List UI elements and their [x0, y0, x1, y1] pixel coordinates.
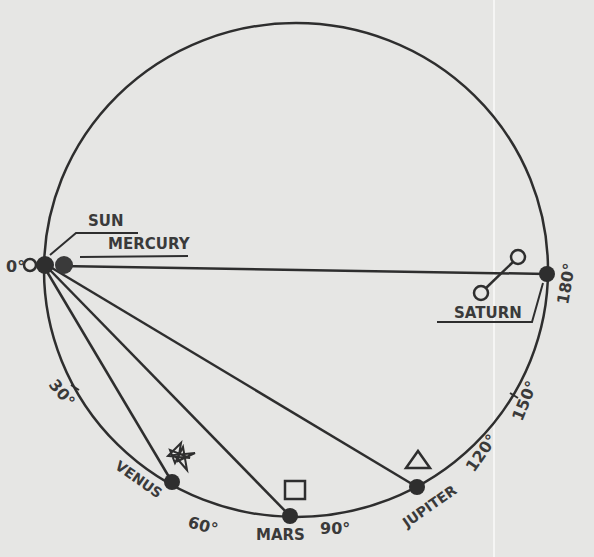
square-icon	[285, 481, 305, 499]
degree-180-label: 180°	[553, 262, 579, 306]
sun-dot-icon	[36, 256, 54, 274]
mercury-label: MERCURY	[108, 235, 191, 253]
degree-90-label: 90°	[320, 519, 350, 538]
jupiter-dot-icon	[409, 479, 425, 495]
mercury-dot-icon	[55, 256, 73, 274]
jupiter-group	[406, 451, 430, 495]
saturn-label: SATURN	[454, 304, 522, 322]
degree-60-label: 60°	[186, 513, 220, 539]
jupiter-label: JUPITER	[399, 482, 460, 531]
triangle-icon	[406, 451, 430, 468]
venus-dot-icon	[164, 474, 180, 490]
mercury-leader-line	[80, 256, 188, 257]
opposition-symbol-top-icon	[511, 250, 525, 264]
line-to-saturn	[60, 266, 547, 274]
venus-group	[164, 443, 195, 490]
zero-degree-marker-icon	[24, 259, 36, 271]
saturn-dot-icon	[539, 266, 555, 282]
line-to-jupiter	[52, 268, 417, 487]
degree-150-label: 150°	[508, 378, 541, 424]
mars-label: MARS	[256, 526, 305, 544]
degree-30-label: 30°	[45, 375, 79, 410]
mars-dot-icon	[282, 508, 298, 524]
degree-120-label: 120°	[462, 430, 501, 475]
star-icon	[168, 443, 195, 470]
sun-label: SUN	[88, 212, 124, 230]
degree-0-label: 0°	[6, 257, 25, 276]
orbit-diagram: SUN MERCURY SATURN VENUS MARS JUPITER 0°…	[0, 0, 594, 557]
opposition-symbol-bar	[486, 262, 513, 288]
opposition-symbol-bottom-icon	[474, 286, 488, 300]
